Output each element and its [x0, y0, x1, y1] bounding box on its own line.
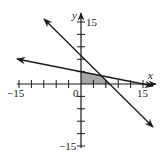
y-min-label: −15 [59, 140, 77, 152]
x-axis-label: x [147, 69, 153, 81]
x-max-label: 15 [137, 87, 149, 99]
inequality-graph: x y 15 −15 15 −15 0 [0, 0, 162, 160]
y-axis-label: y [71, 9, 77, 21]
boundary-line-x-plus-y-7 [44, 19, 153, 127]
x-min-label: −15 [7, 87, 25, 99]
y-max-label: 15 [86, 16, 98, 28]
origin-label: 0 [73, 87, 79, 99]
